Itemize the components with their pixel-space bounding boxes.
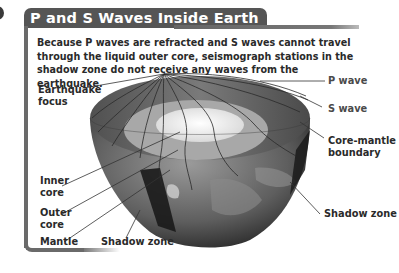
label-mantle: Mantle [40,236,78,248]
label-shadow-zone-bottom: Shadow zone [101,236,174,248]
label-core-mantle-line1: Core-mantle [328,135,396,147]
label-s-wave: S wave [328,103,367,115]
label-inner-core-line2: core [40,187,69,199]
label-core-mantle-boundary: Core-mantle boundary [328,135,396,159]
label-outer-core-line2: core [40,219,71,231]
label-shadow-zone-right: Shadow zone [324,208,397,220]
label-outer-core-line1: Outer [40,207,71,219]
label-inner-core-line1: Inner [40,175,69,187]
label-earthquake-focus-line2: focus [38,96,101,108]
label-earthquake-focus: Earthquake focus [38,84,101,108]
label-p-wave: P wave [328,75,367,87]
label-core-mantle-line2: boundary [328,147,396,159]
label-earthquake-focus-line1: Earthquake [38,84,101,96]
label-outer-core: Outer core [40,207,71,231]
label-inner-core: Inner core [40,175,69,199]
